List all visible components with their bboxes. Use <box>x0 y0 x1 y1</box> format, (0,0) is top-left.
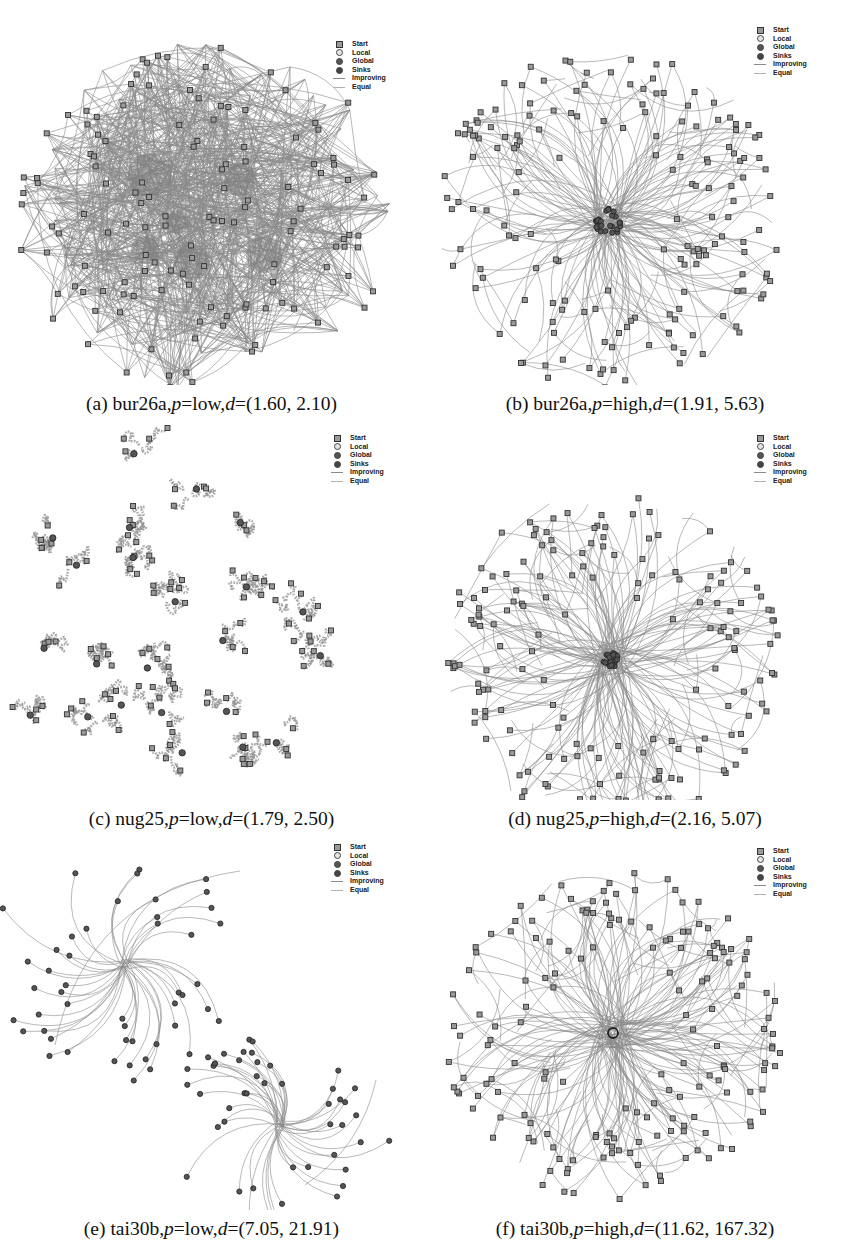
legend-label: Improving <box>773 60 807 69</box>
legend-item-start: Start <box>753 434 807 443</box>
legend-item-improving: Improving <box>753 468 807 477</box>
subcaption-letter: (b) <box>506 393 529 414</box>
circle-icon <box>334 870 341 877</box>
legend-item-global: Global <box>332 57 386 66</box>
line-icon <box>331 890 343 891</box>
legend-label: Global <box>773 864 795 873</box>
legend-item-equal: Equal <box>753 69 807 78</box>
p-value: low <box>185 1218 213 1239</box>
line-icon <box>331 472 343 473</box>
legend-item-sinks: Sinks <box>753 873 807 882</box>
circle-icon <box>757 44 764 51</box>
subcaption-c: (c) nug25,p=low,d=(1.79, 2.50) <box>0 808 423 830</box>
legend-item-improving: Improving <box>330 877 384 886</box>
legend-item-sinks: Sinks <box>753 460 807 469</box>
panel-c: StartLocalGlobalSinksImprovingEqual <box>0 420 423 810</box>
sep: = <box>583 1218 594 1239</box>
p-value: high <box>594 1218 629 1239</box>
square-icon <box>757 435 764 442</box>
legend-label: Start <box>352 40 368 49</box>
circle-icon <box>334 461 341 468</box>
line-icon <box>754 894 766 895</box>
sep: = <box>174 1218 185 1239</box>
panel-f: StartLocalGlobalSinksImprovingEqual <box>423 835 847 1220</box>
legend-item-local: Local <box>753 856 807 865</box>
subcaption-b: (b) bur26a,p=high,d=(1.91, 5.63) <box>423 393 847 415</box>
legend-label: Start <box>773 434 789 443</box>
legend-item-local: Local <box>330 443 384 452</box>
legend-item-equal: Equal <box>753 890 807 899</box>
d-symbol: d <box>225 393 235 414</box>
panel-a: StartLocalGlobalSinksImprovingEqual <box>0 0 423 395</box>
instance-name: tai30b <box>110 1218 159 1239</box>
line-icon <box>754 481 766 482</box>
legend-label: Sinks <box>773 52 792 61</box>
legend-label: Sinks <box>773 460 792 469</box>
d-value: (11.62, 167.32) <box>655 1218 775 1239</box>
d-symbol: d <box>218 1218 228 1239</box>
p-symbol: p <box>164 1218 174 1239</box>
d-value: (1.60, 2.10) <box>246 393 337 414</box>
panel-b: StartLocalGlobalSinksImprovingEqual <box>423 0 847 395</box>
circle-icon <box>757 874 764 881</box>
legend: StartLocalGlobalSinksImprovingEqual <box>330 843 384 895</box>
subcaption-letter: (c) <box>89 808 111 829</box>
circle-icon <box>336 49 343 56</box>
subcaption-letter: (e) <box>84 1218 106 1239</box>
circle-icon <box>757 35 764 42</box>
circle-icon <box>757 856 764 863</box>
subcaption-d: (d) nug25,p=high,d=(2.16, 5.07) <box>423 808 847 830</box>
legend-label: Improving <box>350 877 384 886</box>
p-value: high <box>613 393 648 414</box>
subcaption-letter: (d) <box>508 808 531 829</box>
legend-item-sinks: Sinks <box>332 66 386 75</box>
legend-item-start: Start <box>332 40 386 49</box>
legend-item-improving: Improving <box>330 468 384 477</box>
d-value: (2.16, 5.07) <box>671 808 762 829</box>
legend-label: Sinks <box>350 869 369 878</box>
legend-item-global: Global <box>330 860 384 869</box>
legend-label: Global <box>352 57 374 66</box>
legend: StartLocalGlobalSinksImprovingEqual <box>753 26 807 78</box>
instance-name: bur26a <box>113 393 167 414</box>
subcaption-letter: (a) <box>86 393 108 414</box>
legend-item-equal: Equal <box>330 477 384 486</box>
circle-icon <box>334 443 341 450</box>
legend-item-local: Local <box>753 443 807 452</box>
legend: StartLocalGlobalSinksImprovingEqual <box>753 434 807 486</box>
d-symbol: d <box>634 1218 644 1239</box>
legend-label: Global <box>350 860 372 869</box>
p-symbol: p <box>592 393 602 414</box>
legend-label: Improving <box>773 468 807 477</box>
panel-e: StartLocalGlobalSinksImprovingEqual <box>0 835 423 1220</box>
circle-icon <box>334 852 341 859</box>
legend-label: Local <box>773 443 791 452</box>
circle-icon <box>757 461 764 468</box>
circle-icon <box>757 865 764 872</box>
legend-label: Local <box>352 49 370 58</box>
subcaption-letter: (f) <box>496 1218 515 1239</box>
legend-item-sinks: Sinks <box>330 869 384 878</box>
circle-icon <box>336 67 343 74</box>
legend-item-start: Start <box>330 434 384 443</box>
circle-icon <box>336 58 343 65</box>
legend-label: Sinks <box>773 873 792 882</box>
legend-label: Local <box>773 856 791 865</box>
legend-item-local: Local <box>332 49 386 58</box>
p-symbol: p <box>172 393 182 414</box>
legend: StartLocalGlobalSinksImprovingEqual <box>330 434 384 486</box>
square-icon <box>336 41 343 48</box>
d-symbol: d <box>223 808 233 829</box>
subcaption-f: (f) tai30b,p=high,d=(11.62, 167.32) <box>423 1218 847 1240</box>
legend-item-equal: Equal <box>330 886 384 895</box>
line-icon <box>754 64 766 65</box>
p-symbol: p <box>590 808 600 829</box>
legend-label: Start <box>773 26 789 35</box>
line-icon <box>331 881 343 882</box>
line-icon <box>754 885 766 886</box>
legend-label: Improving <box>352 74 386 83</box>
d-value: (1.79, 2.50) <box>243 808 334 829</box>
legend-item-start: Start <box>330 843 384 852</box>
legend-label: Sinks <box>352 66 371 75</box>
sep: = <box>644 1218 655 1239</box>
